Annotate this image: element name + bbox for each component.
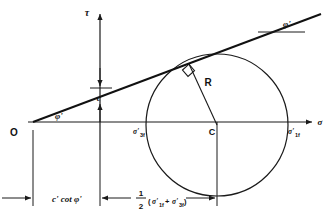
radius-label: R [204,77,212,88]
phi-angle-label-right: φ' [283,19,291,29]
mohr-diagram-canvas: τ σ O φ' φ' c' R C σ' 3f σ' 1f c' cot φ'… [0,0,331,222]
mean-stress-sigma1-symbol: σ' [152,197,158,206]
sigma3f-symbol: σ' [133,127,139,136]
sigma-axis-label: σ [318,117,324,127]
cohesion-label: c' [97,93,104,103]
mean-stress-plus: + [165,197,170,206]
sigma3f-label: σ' 3f [133,127,145,138]
phi-angle-label-left: φ' [55,111,63,121]
mean-stress-sigma1-subscript: 1f [159,202,164,208]
mean-stress-numerator: 1 [139,189,144,198]
mean-stress-dimension-label: 1 2 ( σ' 1f + σ' 3f ) [136,189,187,211]
sigma3f-subscript: 3f [140,132,145,138]
sigma1f-subscript: 1f [295,132,300,138]
center-label: C [209,127,216,137]
mean-stress-sigma3-symbol: σ' [172,197,178,206]
failure-envelope-line [33,14,321,122]
mean-stress-denominator: 2 [139,202,144,211]
origin-label: O [10,127,18,138]
mohr-circle-figure: τ σ O φ' φ' c' R C σ' 3f σ' 1f c' cot φ'… [0,0,331,222]
sigma1f-label: σ' 1f [288,127,300,138]
tau-axis-label: τ [85,7,90,18]
radius-line [189,64,217,125]
mean-stress-open-paren: ( [148,197,151,206]
sigma1f-symbol: σ' [288,127,294,136]
cohesion-cot-dimension-label: c' cot φ' [52,194,82,204]
